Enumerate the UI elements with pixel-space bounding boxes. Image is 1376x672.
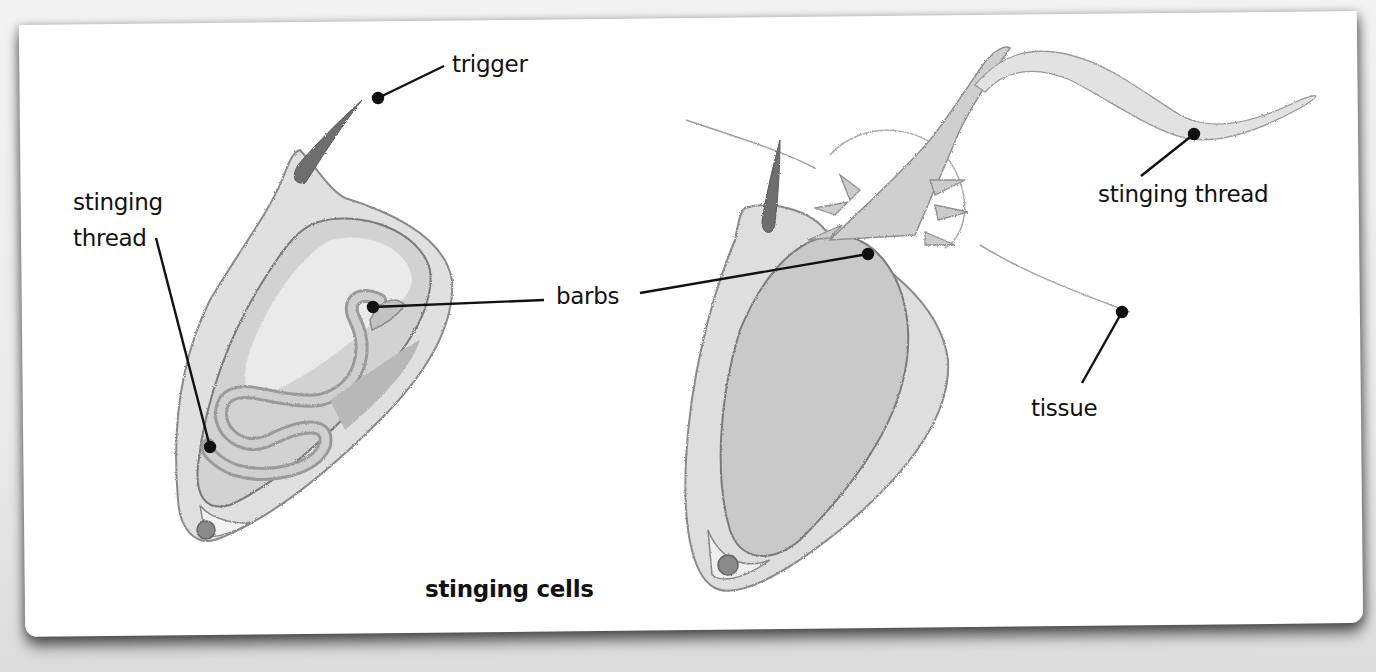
discharged-cell: [685, 47, 1315, 591]
stinging-thread-right-leader: [1141, 134, 1194, 176]
undischarged-cell: [176, 100, 452, 541]
label-trigger: trigger: [452, 50, 528, 78]
stinging-thread-long: [975, 51, 1316, 139]
label-stinging-thread-right: stinging thread: [1098, 180, 1268, 208]
diagram-title: stinging cells: [425, 576, 594, 602]
label-stinging-thread-left-line1: stinging: [73, 188, 163, 216]
stinging-thread-right-pin: [1189, 129, 1199, 139]
trigger-pin: [373, 93, 383, 103]
label-stinging-thread-left-line2: thread: [73, 224, 147, 252]
tissue-line-lower: [980, 245, 1130, 312]
tissue-line-upper: [686, 120, 815, 168]
stinging-cells-illustration: [0, 0, 1376, 672]
right-nucleus: [718, 555, 738, 575]
stinging-thread-left-pin: [205, 442, 215, 452]
tissue-leader: [1082, 312, 1122, 383]
trigger-bristle: [294, 100, 362, 183]
label-tissue: tissue: [1031, 394, 1097, 422]
label-barbs: barbs: [556, 282, 619, 310]
barbs-right-pin: [863, 249, 873, 259]
left-nucleus: [197, 521, 215, 539]
tissue-pin: [1117, 307, 1127, 317]
barbs-left-pin: [368, 302, 378, 312]
trigger-leader: [378, 66, 444, 98]
